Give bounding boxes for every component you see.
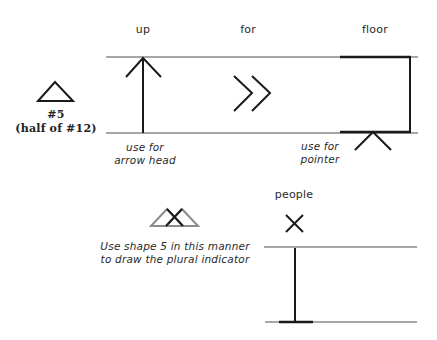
- shape5-label: #5 (half of #12): [15, 108, 96, 136]
- up-arrow-icon: [126, 58, 161, 133]
- arrow-head-caption: use for arrow head: [114, 141, 176, 167]
- pointer-caption-line1: use for: [301, 140, 340, 153]
- shape5-note: (half of #12): [15, 122, 96, 136]
- pointer-caret-icon: [355, 132, 391, 150]
- label-for: for: [240, 23, 256, 36]
- diagram-canvas: [0, 0, 437, 340]
- label-up: up: [136, 23, 150, 36]
- pointer-caption-line2: pointer: [301, 153, 340, 166]
- pointer-caption: use for pointer: [301, 140, 340, 166]
- arrow-head-caption-line1: use for: [114, 141, 176, 154]
- people-x-icon: [286, 215, 303, 232]
- plural-caption-line2: to draw the plural indicator: [100, 253, 249, 266]
- plural-caption: Use shape 5 in this manner to draw the p…: [100, 240, 249, 266]
- plural-indicator-icon: [151, 209, 198, 226]
- triangle-shape-5-icon: [38, 82, 73, 101]
- arrow-head-caption-line2: arrow head: [114, 154, 176, 167]
- people-stem-icon: [279, 248, 313, 322]
- label-people: people: [275, 188, 314, 201]
- plural-caption-line1: Use shape 5 in this manner: [100, 240, 249, 253]
- shape5-number: #5: [15, 108, 96, 122]
- double-chevron-icon: [234, 76, 270, 111]
- label-floor: floor: [362, 23, 388, 36]
- floor-bracket-icon: [340, 57, 411, 132]
